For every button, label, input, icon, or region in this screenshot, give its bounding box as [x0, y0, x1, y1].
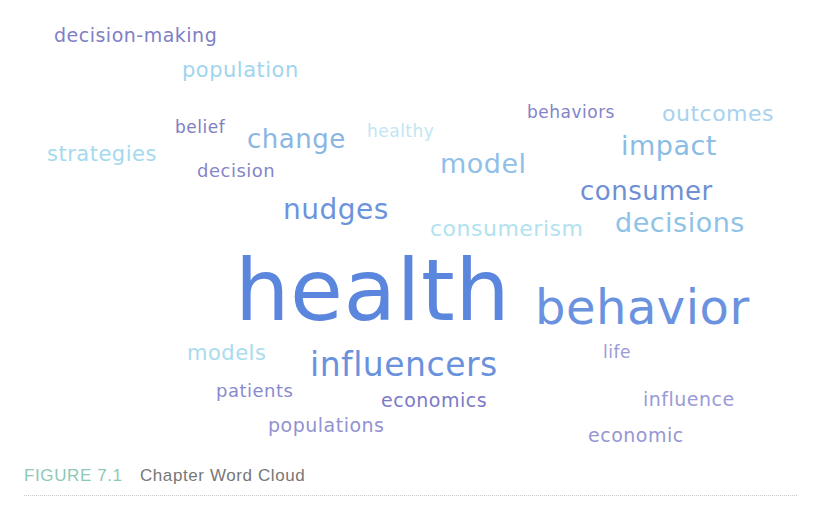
word-behavior: behavior — [535, 283, 750, 331]
word-cloud: decision-makingpopulationbeliefchangehea… — [0, 0, 833, 460]
word-decision: decision — [197, 162, 275, 180]
word-belief: belief — [175, 119, 225, 136]
word-nudges: nudges — [283, 196, 389, 224]
word-change: change — [247, 126, 346, 152]
figure-label: FIGURE 7.1 — [24, 466, 123, 485]
word-healthy: healthy — [367, 123, 434, 140]
word-patients: patients — [216, 382, 293, 400]
caption-divider — [24, 495, 797, 496]
word-consumer: consumer — [580, 178, 713, 204]
word-health: health — [235, 247, 510, 333]
word-strategies: strategies — [47, 144, 157, 165]
word-populations: populations — [268, 416, 385, 435]
word-influencers: influencers — [310, 348, 498, 381]
word-economics: economics — [381, 391, 487, 410]
word-impact: impact — [621, 132, 717, 159]
word-outcomes: outcomes — [662, 103, 774, 125]
word-models: models — [187, 343, 266, 364]
figure-caption: FIGURE 7.1 Chapter Word Cloud — [24, 466, 305, 486]
word-decisions: decisions — [615, 209, 745, 236]
word-population: population — [182, 60, 299, 81]
word-influence: influence — [643, 390, 735, 409]
word-behaviors: behaviors — [527, 104, 615, 121]
word-model: model — [440, 150, 527, 177]
word-life: life — [603, 344, 631, 361]
figure-title: Chapter Word Cloud — [140, 466, 305, 485]
word-economic: economic — [588, 426, 684, 445]
word-consumerism: consumerism — [430, 218, 583, 240]
word-decision-making: decision-making — [54, 26, 217, 45]
